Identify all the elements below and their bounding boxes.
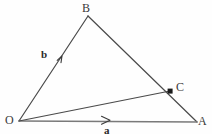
segment-OC: [19, 91, 170, 121]
segment-OB: [19, 16, 88, 121]
arrowhead-vector-a: [102, 116, 111, 124]
vertex-label-b: B: [82, 2, 90, 14]
vertex-label-a: A: [198, 115, 207, 127]
vertex-label-o: O: [5, 114, 14, 126]
vector-triangle-diagram: B O A C b a: [0, 0, 212, 134]
diagram-canvas: [0, 0, 212, 134]
point-marker-C: [168, 89, 173, 94]
vector-label-a: a: [104, 125, 110, 134]
segment-BA: [88, 16, 197, 122]
vertex-label-c: C: [176, 81, 184, 93]
vector-label-b: b: [41, 49, 47, 60]
